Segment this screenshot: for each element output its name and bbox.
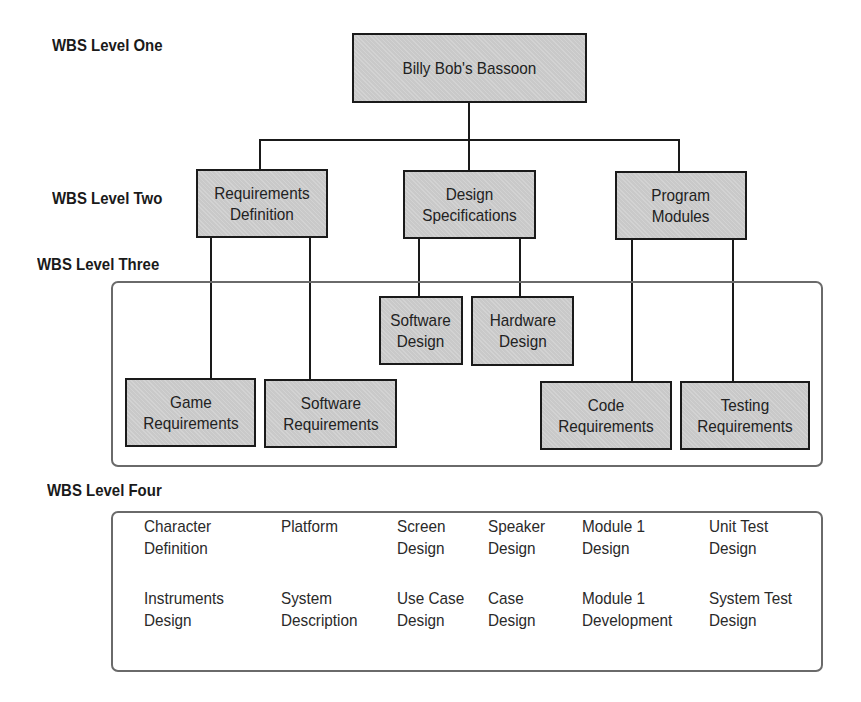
level4-item: Speaker Design (488, 516, 545, 560)
node-label: Billy Bob's Bassoon (403, 58, 537, 79)
node-label: Program Modules (652, 185, 711, 227)
node-software-design[interactable]: Software Design (379, 296, 463, 365)
connector-root-down (468, 102, 470, 170)
node-label: Code Requirements (558, 395, 653, 437)
level-three-label: WBS Level Three (37, 255, 159, 275)
level4-item: System Description (281, 588, 358, 632)
node-game-requirements[interactable]: Game Requirements (125, 378, 256, 447)
level-one-label: WBS Level One (52, 36, 163, 56)
connector-to-requirements-definition (259, 139, 261, 170)
node-label: Game Requirements (143, 392, 238, 434)
level4-item: Use Case Design (397, 588, 464, 632)
connector-to-program-modules (678, 139, 680, 171)
node-code-requirements[interactable]: Code Requirements (540, 381, 672, 450)
level4-item: Module 1 Development (582, 588, 672, 632)
node-label: Software Design (391, 310, 451, 352)
node-hardware-design[interactable]: Hardware Design (471, 296, 574, 366)
level4-item: Unit Test Design (709, 516, 768, 560)
level4-item: System Test Design (709, 588, 792, 632)
level4-item: Instruments Design (144, 588, 224, 632)
node-design-specifications[interactable]: Design Specifications (403, 170, 536, 239)
node-label: Software Requirements (283, 393, 378, 435)
node-label: Requirements Definition (214, 183, 309, 225)
level-two-label: WBS Level Two (52, 189, 162, 209)
node-label: Design Specifications (422, 184, 516, 226)
level-four-label: WBS Level Four (47, 481, 162, 501)
node-label: Hardware Design (489, 310, 555, 352)
level4-item: Screen Design (397, 516, 445, 560)
node-software-requirements[interactable]: Software Requirements (264, 379, 397, 448)
node-label: Testing Requirements (697, 395, 792, 437)
level4-item: Platform (281, 516, 338, 538)
level4-item: Module 1 Design (582, 516, 645, 560)
level4-item: Character Definition (144, 516, 211, 560)
node-billy-bobs-bassoon[interactable]: Billy Bob's Bassoon (352, 33, 587, 103)
node-program-modules[interactable]: Program Modules (615, 171, 747, 240)
node-testing-requirements[interactable]: Testing Requirements (680, 381, 810, 450)
connector-level2-bus (259, 139, 680, 141)
node-requirements-definition[interactable]: Requirements Definition (196, 169, 328, 238)
level4-item: Case Design (488, 588, 536, 632)
